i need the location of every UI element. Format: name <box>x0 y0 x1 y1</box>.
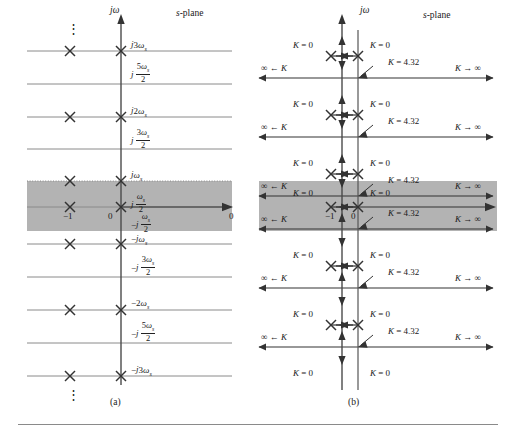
freq-label-j3ws: j3ωs <box>131 40 147 52</box>
k-to-infinity-1: K → ∞ <box>455 64 481 73</box>
k-zero-right-1: K = 0 <box>370 41 390 50</box>
k-zero-right-3: K = 0 <box>370 159 390 168</box>
k-zero-left-4: K = 0 <box>293 189 313 198</box>
panel-b-caption: (b) <box>348 398 359 408</box>
bottom-divider <box>18 424 498 425</box>
k-zero-left-5: K = 0 <box>293 251 313 260</box>
panel-a-imaginary-axis-label: jω <box>110 6 119 16</box>
freq-label-neg-jws: −jωs <box>131 234 147 246</box>
panel-a-ellipsis-top: ⋮ <box>67 22 80 35</box>
panel-b-imaginary-axis-label: jω <box>360 6 369 16</box>
panel-a-origin-label: 0 <box>108 212 113 221</box>
freq-label-neg-j3ws-over-2: −j 3ωs2 <box>131 255 155 276</box>
freq-label-neg-jws-over-2: −j ωs2 <box>131 212 151 233</box>
k-breakaway-5: K = 4.32 <box>388 268 419 277</box>
freq-label-j3ws-over-2: j 3ωs2 <box>131 128 150 149</box>
panel-b-plane-label: s-plane <box>423 11 450 21</box>
k-zero-right-2: K = 0 <box>370 100 390 109</box>
k-zero-left-2: K = 0 <box>293 100 313 109</box>
k-from-infinity-6: ∞ ← K <box>261 333 287 342</box>
panel-a-pole-real-label: −1 <box>63 212 73 221</box>
k-breakaway-3: K = 4.32 <box>388 176 419 185</box>
k-breakaway-2: K = 4.32 <box>388 117 419 126</box>
primary-strip-shading <box>27 181 232 231</box>
k-to-infinity-3: K → ∞ <box>455 182 481 191</box>
k-to-infinity-4: K → ∞ <box>455 215 481 224</box>
figure-root-locus-sampled-data: jω s-plane ⋮ ⋮ j3ωs j 5ωs2 j2ωs j 3ωs2 j… <box>0 0 509 434</box>
k-to-infinity-2: K → ∞ <box>455 123 481 132</box>
k-from-infinity-1: ∞ ← K <box>261 64 287 73</box>
freq-label-neg-2ws: −2ωs <box>131 299 149 310</box>
k-from-infinity-4: ∞ ← K <box>261 215 287 224</box>
freq-label-neg-j5ws-over-2: −j 5ωs2 <box>131 321 155 342</box>
panel-b-origin-label: 0 <box>351 212 356 221</box>
k-from-infinity-5: ∞ ← K <box>261 274 287 283</box>
k-zero-left-1: K = 0 <box>293 41 313 50</box>
k-to-infinity-6: K → ∞ <box>455 333 481 342</box>
k-zero-right-5: K = 0 <box>370 251 390 260</box>
panel-a-graphic <box>0 0 260 420</box>
k-from-infinity-2: ∞ ← K <box>261 123 287 132</box>
imaginary-axis-arrowhead <box>117 14 124 24</box>
k-breakaway-1: K = 4.32 <box>388 58 419 67</box>
panel-a-caption: (a) <box>110 398 121 408</box>
k-from-infinity-3: ∞ ← K <box>261 182 287 191</box>
k-zero-left-3: K = 0 <box>293 159 313 168</box>
freq-label-neg-j3ws: −j3ωs <box>131 365 152 377</box>
k-zero-left-6: K = 0 <box>293 310 313 319</box>
k-zero-left-7: K = 0 <box>293 369 313 378</box>
freq-label-j5ws-over-2: j 5ωs2 <box>131 62 150 83</box>
k-breakaway-4: K = 4.32 <box>388 209 419 218</box>
imaginary-axis-arrowhead <box>338 14 345 24</box>
k-zero-right-4: K = 0 <box>370 189 390 198</box>
panel-b-pole-real-label: −1 <box>325 212 335 221</box>
freq-label-jws: jωs <box>131 170 142 182</box>
freq-label-j2ws: j2ωs <box>131 106 147 118</box>
k-breakaway-6: K = 4.32 <box>388 327 419 336</box>
panel-a-real-axis-label: 0 <box>229 212 234 221</box>
k-zero-right-6: K = 0 <box>370 310 390 319</box>
panel-a-plane-label: s-plane <box>176 9 203 19</box>
k-zero-right-7: K = 0 <box>370 369 390 378</box>
panel-a-ellipsis-bottom: ⋮ <box>67 388 80 401</box>
k-to-infinity-5: K → ∞ <box>455 274 481 283</box>
